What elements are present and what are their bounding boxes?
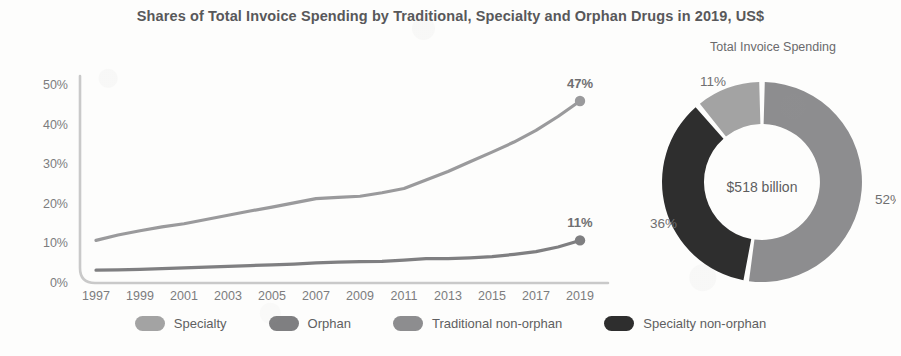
- x-tick-label: 2013: [434, 289, 462, 302]
- x-axis-ticks: 1997 1999 2001 2003 2005 2007 2009 2011 …: [82, 289, 594, 302]
- y-tick-label: 40%: [43, 118, 68, 132]
- x-tick-label: 2003: [214, 289, 242, 302]
- x-tick-label: 2019: [566, 289, 594, 302]
- specialty-endpoint-label: 47%: [567, 76, 593, 91]
- specialty-endpoint-marker: [575, 96, 585, 106]
- x-tick-label: 2001: [170, 289, 198, 302]
- orphan-line: [96, 240, 580, 270]
- donut-label-orphan: 11%: [700, 74, 726, 89]
- x-tick-label: 2017: [522, 289, 550, 302]
- x-tick-label: 2007: [302, 289, 330, 302]
- legend-item-specialty-non-orphan[interactable]: Specialty non-orphan: [604, 316, 766, 331]
- legend-swatch-icon: [269, 316, 299, 331]
- legend-item-orphan[interactable]: Orphan: [269, 316, 351, 331]
- x-tick-label: 2009: [346, 289, 374, 302]
- legend-swatch-icon: [135, 316, 165, 331]
- y-tick-label: 0%: [50, 276, 68, 290]
- y-tick-label: 50%: [43, 78, 68, 92]
- legend-label: Traditional non-orphan: [432, 316, 562, 331]
- legend-label: Orphan: [308, 316, 351, 331]
- donut-chart-title: Total Invoice Spending: [648, 40, 898, 54]
- x-tick-label: 1997: [82, 289, 110, 302]
- page-title: Shares of Total Invoice Spending by Trad…: [0, 8, 901, 24]
- line-chart: 50% 40% 30% 20% 10% 0% 1997 1999 2001 20…: [18, 62, 618, 302]
- donut-chart: $518 billion 52% 36% 11%: [628, 62, 896, 302]
- chart-legend: Specialty Orphan Traditional non-orphan …: [0, 316, 901, 331]
- x-tick-label: 2011: [391, 289, 418, 302]
- legend-item-traditional-non-orphan[interactable]: Traditional non-orphan: [393, 316, 562, 331]
- orphan-endpoint-marker: [575, 235, 585, 245]
- y-tick-label: 10%: [43, 236, 68, 250]
- y-tick-label: 20%: [43, 197, 68, 211]
- chart-figure: Shares of Total Invoice Spending by Trad…: [0, 0, 901, 356]
- y-tick-label: 30%: [43, 157, 68, 171]
- x-tick-label: 1999: [126, 289, 154, 302]
- legend-item-specialty[interactable]: Specialty: [135, 316, 227, 331]
- y-axis-ticks: 50% 40% 30% 20% 10% 0%: [43, 78, 68, 290]
- legend-swatch-icon: [393, 316, 423, 331]
- legend-label: Specialty: [174, 316, 227, 331]
- x-tick-label: 2005: [258, 289, 286, 302]
- donut-center-label: $518 billion: [727, 179, 798, 195]
- orphan-endpoint-label: 11%: [567, 215, 593, 230]
- x-tick-label: 2015: [478, 289, 506, 302]
- legend-label: Specialty non-orphan: [643, 316, 766, 331]
- specialty-line: [96, 101, 580, 240]
- donut-chart-svg: $518 billion 52% 36% 11%: [628, 62, 896, 302]
- donut-label-specialty-non-orphan: 36%: [650, 216, 677, 231]
- legend-swatch-icon: [604, 316, 634, 331]
- line-chart-svg: 50% 40% 30% 20% 10% 0% 1997 1999 2001 20…: [18, 62, 618, 302]
- donut-label-traditional: 52%: [875, 192, 896, 207]
